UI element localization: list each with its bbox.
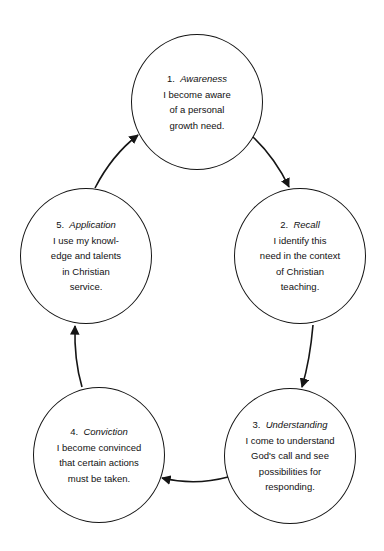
stage-text-line: in Christian [62, 264, 110, 280]
stage-text-line: of Christian [276, 264, 324, 280]
stage-text-line: teaching. [281, 279, 320, 295]
stage-text-line: I become aware [163, 87, 231, 103]
arrow-1-to-2 [253, 137, 289, 187]
stage-text-line: service. [70, 279, 103, 295]
stage-text-line: I use my knowl- [53, 233, 119, 249]
arrow-2-to-3 [302, 325, 313, 387]
arrow-3-to-4 [162, 477, 228, 482]
stage-text-line: responding. [265, 479, 315, 495]
stage-awareness: 1. Awareness I become aware of a persona… [131, 34, 263, 170]
stage-text-line: that certain actions [59, 455, 139, 471]
stage-text-line: I become convinced [57, 440, 142, 456]
stage-text-line: must be taken. [68, 471, 130, 487]
stage-title: 3. Understanding [252, 417, 327, 433]
stage-text-line: I come to understand [245, 433, 334, 449]
stage-title: 1. Awareness [167, 71, 227, 87]
stage-title: 5. Application [56, 217, 116, 233]
stage-text-line: growth need. [170, 118, 225, 134]
stage-text-line: of a personal [170, 102, 225, 118]
stage-application: 5. Application I use my knowl- edge and … [20, 188, 152, 324]
stage-understanding: 3. Understanding I come to understand Go… [224, 388, 356, 524]
stage-conviction: 4. Conviction I become convinced that ce… [33, 387, 165, 523]
arrow-4-to-5 [75, 326, 82, 387]
stage-text-line: edge and talents [51, 248, 121, 264]
stage-title: 4. Conviction [70, 424, 128, 440]
stage-recall: 2. Recall I identify this need in the co… [234, 188, 366, 324]
stage-text-line: possibilities for [259, 464, 321, 480]
stage-text-line: God's call and see [251, 448, 329, 464]
stage-text-line: need in the context [260, 248, 340, 264]
stage-title: 2. Recall [280, 217, 320, 233]
stage-text-line: I identify this [274, 233, 327, 249]
arrow-5-to-1 [95, 135, 138, 188]
